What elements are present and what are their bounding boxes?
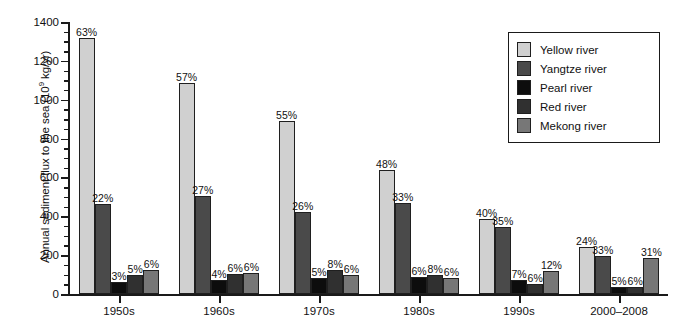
bar-value-label: 5% <box>611 275 626 287</box>
y-tick-label: 1200 <box>33 55 59 67</box>
bar[interactable]: 6% <box>443 278 459 294</box>
y-tick-minor <box>64 32 68 33</box>
y-tick-minor <box>64 109 68 110</box>
bar-value-label: 6% <box>244 261 259 273</box>
y-tick-minor <box>64 275 68 276</box>
bar-value-label: 5% <box>311 266 326 278</box>
y-tick-minor <box>64 226 68 227</box>
bar[interactable]: 35% <box>495 227 511 294</box>
bar-value-label: 63% <box>76 26 97 38</box>
x-tick <box>519 294 521 303</box>
legend-label: Pearl river <box>540 82 592 94</box>
y-tick-minor <box>64 41 68 42</box>
y-tick-major <box>61 61 68 63</box>
bar[interactable]: 5% <box>611 287 627 294</box>
bar-group: 55%26%5%8%6% <box>279 22 360 294</box>
bar-value-label: 6% <box>411 265 426 277</box>
bar-value-label: 48% <box>376 158 397 170</box>
bar-value-label: 6% <box>144 258 159 270</box>
bar[interactable]: 6% <box>343 275 359 294</box>
y-tick-label: 800 <box>40 133 59 145</box>
bar[interactable]: 8% <box>327 270 343 294</box>
bar[interactable]: 48% <box>379 170 395 294</box>
y-tick-minor <box>64 148 68 149</box>
y-tick-major <box>61 255 68 257</box>
bar[interactable]: 3% <box>111 282 127 294</box>
y-tick-minor <box>64 51 68 52</box>
y-tick-minor <box>64 207 68 208</box>
bar-value-label: 35% <box>492 215 513 227</box>
legend-swatch-icon <box>517 99 531 114</box>
y-tick-minor <box>64 168 68 169</box>
bar[interactable]: 6% <box>527 284 543 294</box>
bar-value-label: 12% <box>541 259 562 271</box>
y-tick-major <box>61 177 68 179</box>
y-tick-minor <box>64 265 68 266</box>
bar-value-label: 5% <box>128 263 143 275</box>
x-tick-label: 1980s <box>403 305 434 317</box>
y-tick-minor <box>64 158 68 159</box>
x-tick <box>119 294 121 303</box>
legend-item-mekong-river[interactable]: Mekong river <box>517 116 649 135</box>
bar-value-label: 4% <box>211 268 226 280</box>
y-tick-label: 0 <box>53 288 59 300</box>
y-tick-minor <box>64 119 68 120</box>
y-tick-minor <box>64 245 68 246</box>
y-axis-line <box>68 22 70 294</box>
y-tick-major <box>61 100 68 102</box>
bar-value-label: 7% <box>511 268 526 280</box>
bar[interactable]: 33% <box>595 256 611 294</box>
bar[interactable]: 40% <box>479 219 495 294</box>
bar-chart: Annual sediment flux to the sea (109 kg/… <box>0 0 678 329</box>
bar[interactable]: 33% <box>395 203 411 294</box>
bar-value-label: 6% <box>628 275 643 287</box>
bar[interactable]: 4% <box>211 280 227 294</box>
bar-value-label: 27% <box>192 184 213 196</box>
y-tick-minor <box>64 284 68 285</box>
y-tick-label: 400 <box>40 210 59 222</box>
bar[interactable]: 6% <box>627 287 643 294</box>
bar-group: 57%27%4%6%6% <box>179 22 260 294</box>
y-tick-major <box>61 139 68 141</box>
y-tick-minor <box>64 71 68 72</box>
bar[interactable]: 6% <box>411 277 427 294</box>
bar-value-label: 6% <box>344 263 359 275</box>
x-tick-label: 1950s <box>103 305 134 317</box>
bar-value-label: 31% <box>641 246 662 258</box>
x-tick-label: 1970s <box>303 305 334 317</box>
legend-item-red-river[interactable]: Red river <box>517 97 649 116</box>
legend-swatch-icon <box>517 118 531 133</box>
y-tick-minor <box>64 80 68 81</box>
bar-value-label: 6% <box>528 272 543 284</box>
x-tick <box>219 294 221 303</box>
x-tick-label: 1960s <box>203 305 234 317</box>
bar[interactable]: 22% <box>95 204 111 294</box>
bar[interactable]: 63% <box>79 38 95 294</box>
bar[interactable]: 5% <box>311 278 327 294</box>
x-tick <box>319 294 321 303</box>
y-tick-minor <box>64 129 68 130</box>
x-axis-line <box>68 294 668 296</box>
bar[interactable]: 27% <box>195 196 211 294</box>
legend-item-yellow-river[interactable]: Yellow river <box>517 40 649 59</box>
bar[interactable]: 6% <box>243 273 259 294</box>
bar[interactable]: 26% <box>295 212 311 294</box>
bar[interactable]: 8% <box>427 275 443 294</box>
legend-label: Mekong river <box>540 120 606 132</box>
bar[interactable]: 6% <box>143 270 159 294</box>
bar[interactable]: 6% <box>227 274 243 294</box>
y-tick-label: 1000 <box>33 94 59 106</box>
legend-item-yangtze-river[interactable]: Yangtze river <box>517 59 649 78</box>
bar-value-label: 6% <box>228 262 243 274</box>
bar[interactable]: 5% <box>127 275 143 294</box>
bar-value-label: 6% <box>444 266 459 278</box>
legend-swatch-icon <box>517 61 531 76</box>
bar[interactable]: 12% <box>543 271 559 294</box>
legend-item-pearl-river[interactable]: Pearl river <box>517 78 649 97</box>
y-tick-minor <box>64 236 68 237</box>
bar-value-label: 3% <box>111 270 126 282</box>
y-tick-major <box>61 294 68 296</box>
bar[interactable]: 31% <box>643 258 659 294</box>
bar[interactable]: 7% <box>511 280 527 294</box>
legend-label: Yellow river <box>540 44 598 56</box>
